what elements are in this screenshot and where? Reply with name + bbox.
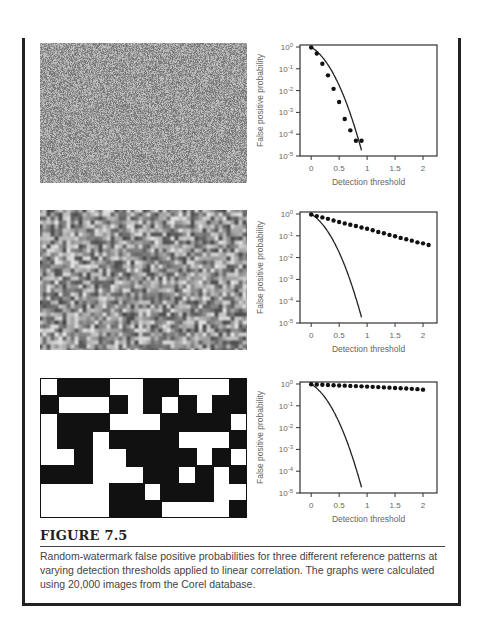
chart-lowpass-noise: 10010-110-210-310-410-500.511.52Detectio… xyxy=(250,205,460,370)
svg-text:1.5: 1.5 xyxy=(389,331,401,340)
svg-text:Detection threshold: Detection threshold xyxy=(332,514,406,524)
svg-text:10-4: 10-4 xyxy=(279,466,294,476)
frame-left-border xyxy=(22,38,25,605)
svg-text:1: 1 xyxy=(365,164,370,173)
svg-text:10-5: 10-5 xyxy=(279,488,294,498)
chart-white-noise: 10010-110-210-310-410-500.511.52Detectio… xyxy=(250,38,460,203)
svg-text:False positive probability: False positive probability xyxy=(255,390,265,484)
lowpass-noise-pattern xyxy=(40,210,247,350)
svg-text:0: 0 xyxy=(309,331,314,340)
svg-text:2: 2 xyxy=(421,501,426,510)
caption-text: Random-watermark false positive probabil… xyxy=(40,549,445,591)
svg-text:10-2: 10-2 xyxy=(279,86,294,96)
svg-text:1.5: 1.5 xyxy=(389,501,401,510)
svg-text:10-4: 10-4 xyxy=(279,129,294,139)
svg-text:0.5: 0.5 xyxy=(334,501,346,510)
svg-text:0: 0 xyxy=(309,501,314,510)
frame-bottom-border xyxy=(22,603,461,606)
svg-text:Detection threshold: Detection threshold xyxy=(332,344,406,354)
svg-text:10-5: 10-5 xyxy=(279,151,294,161)
svg-text:False positive probability: False positive probability xyxy=(255,220,265,314)
svg-text:10-2: 10-2 xyxy=(279,423,294,433)
svg-text:1: 1 xyxy=(365,501,370,510)
chart-block-pattern: 10010-110-210-310-410-500.511.52Detectio… xyxy=(250,375,460,540)
svg-text:10-4: 10-4 xyxy=(279,296,294,306)
caption-divider xyxy=(40,546,445,547)
svg-text:0.5: 0.5 xyxy=(334,331,346,340)
svg-text:2: 2 xyxy=(421,164,426,173)
white-noise-pattern xyxy=(40,43,247,183)
svg-text:100: 100 xyxy=(281,209,294,219)
svg-text:False positive probability: False positive probability xyxy=(255,53,265,147)
svg-text:10-3: 10-3 xyxy=(279,444,294,454)
svg-text:0: 0 xyxy=(309,164,314,173)
figure-caption: FIGURE 7.5 Random-watermark false positi… xyxy=(40,528,445,591)
block-pattern xyxy=(40,378,247,518)
svg-text:2: 2 xyxy=(421,331,426,340)
figure-label: FIGURE 7.5 xyxy=(40,528,445,543)
svg-text:10-1: 10-1 xyxy=(279,401,294,411)
svg-text:1: 1 xyxy=(365,331,370,340)
svg-text:10-2: 10-2 xyxy=(279,253,294,263)
svg-text:Detection threshold: Detection threshold xyxy=(332,177,406,187)
svg-text:10-1: 10-1 xyxy=(279,231,294,241)
svg-text:10-5: 10-5 xyxy=(279,318,294,328)
svg-text:10-1: 10-1 xyxy=(279,64,294,74)
svg-text:10-3: 10-3 xyxy=(279,274,294,284)
svg-text:0.5: 0.5 xyxy=(334,164,346,173)
svg-text:100: 100 xyxy=(281,379,294,389)
svg-text:100: 100 xyxy=(281,42,294,52)
svg-text:1.5: 1.5 xyxy=(389,164,401,173)
svg-text:10-3: 10-3 xyxy=(279,107,294,117)
